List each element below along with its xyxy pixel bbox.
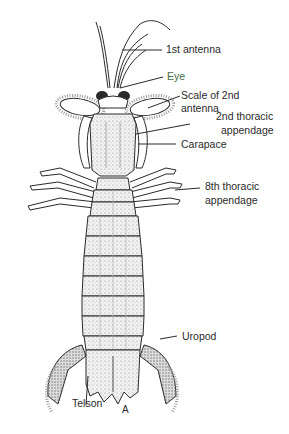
label-scale-2nd-antenna-line1: Scale of 2nd	[181, 89, 239, 101]
label-eye: Eye	[167, 70, 185, 82]
shrimp-illustration	[0, 0, 289, 434]
label-first-antenna: 1st antenna	[166, 43, 221, 55]
label-2nd-thoracic-line1: 2nd thoracic	[216, 110, 273, 122]
label-telson: Telson	[72, 397, 102, 409]
mantis-shrimp-figure: 1st antenna Eye Scale of 2nd antenna 2nd…	[0, 0, 289, 434]
figure-caption: A	[122, 404, 129, 415]
carapace-drawing	[90, 114, 136, 176]
label-carapace: Carapace	[181, 138, 227, 150]
label-uropod: Uropod	[182, 330, 216, 342]
label-scale-2nd-antenna-line2: antenna	[181, 102, 219, 114]
label-2nd-thoracic-line2: appendage	[221, 124, 274, 136]
label-8th-thoracic-line2: appendage	[205, 194, 258, 206]
label-8th-thoracic-line1: 8th thoracic	[205, 180, 259, 192]
eyes	[96, 91, 130, 108]
